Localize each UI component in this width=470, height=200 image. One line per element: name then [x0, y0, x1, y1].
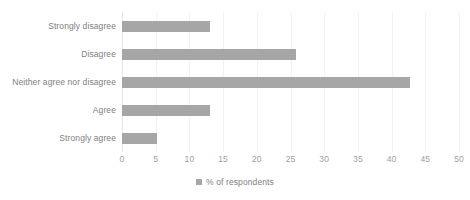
bar: [122, 133, 157, 144]
bar: [122, 77, 410, 88]
category-label: Disagree: [0, 40, 116, 68]
bar-row: [122, 40, 459, 68]
axis-tick-label: 30: [319, 154, 329, 164]
axis-tick-label: 35: [353, 154, 363, 164]
bar-chart: Strongly disagreeDisagreeNeither agree n…: [0, 0, 470, 200]
chart-legend: % of respondents: [0, 177, 470, 187]
square-marker-icon: [196, 179, 202, 185]
bar: [122, 105, 210, 116]
axis-tick-label: 10: [185, 154, 195, 164]
axis-tick-label: 50: [454, 154, 464, 164]
legend-label: % of respondents: [206, 177, 274, 187]
bar: [122, 21, 210, 32]
gridline: [459, 12, 460, 152]
plot-area: [122, 12, 459, 152]
axis-tick-label: 40: [387, 154, 397, 164]
category-label: Strongly disagree: [0, 12, 116, 40]
bar-row: [122, 96, 459, 124]
bar-series: [122, 12, 459, 152]
bar-row: [122, 68, 459, 96]
bar-row: [122, 12, 459, 40]
axis-tick-label: 15: [218, 154, 228, 164]
category-label: Agree: [0, 96, 116, 124]
axis-tick-label: 25: [286, 154, 296, 164]
bar-row: [122, 124, 459, 152]
axis-tick-label: 0: [120, 154, 125, 164]
axis-tick-label: 20: [252, 154, 262, 164]
category-label: Neither agree nor disagree: [0, 68, 116, 96]
axis-tick-label: 45: [420, 154, 430, 164]
value-axis: 05101520253035404550: [122, 154, 459, 168]
axis-tick-label: 5: [153, 154, 158, 164]
category-label: Strongly agree: [0, 124, 116, 152]
category-axis: Strongly disagreeDisagreeNeither agree n…: [0, 12, 116, 152]
bar: [122, 49, 296, 60]
